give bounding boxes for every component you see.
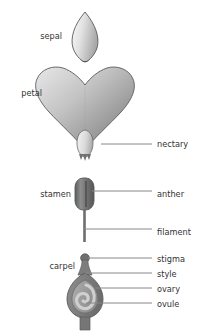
nectary-base-notch — [79, 154, 91, 161]
label-carpel: carpel — [50, 261, 75, 271]
label-stamen: stamen — [40, 189, 71, 199]
label-filament: filament — [157, 227, 192, 237]
flower-diagram-canvas: sepal petal nectary stamen anther filame… — [0, 0, 209, 331]
sepal-shape — [72, 12, 98, 62]
anther-shape — [75, 178, 94, 210]
flower-parts-diagram: sepal petal nectary stamen anther filame… — [0, 0, 209, 331]
carpel-pedicel — [80, 317, 90, 330]
label-ovary: ovary — [157, 284, 180, 294]
label-anther: anther — [157, 189, 185, 199]
label-ovule: ovule — [157, 299, 179, 309]
nectary-group — [77, 130, 152, 161]
nectary-shape — [77, 130, 93, 157]
carpel-group — [67, 254, 152, 330]
sepal-group — [72, 12, 98, 62]
stamen-group — [75, 178, 152, 242]
label-nectary: nectary — [157, 139, 188, 149]
label-stigma: stigma — [157, 254, 185, 264]
label-petal: petal — [21, 88, 42, 98]
label-style: style — [157, 269, 177, 279]
label-sepal: sepal — [40, 31, 62, 41]
